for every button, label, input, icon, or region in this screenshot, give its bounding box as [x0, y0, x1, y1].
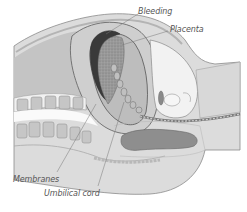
label-membranes: Membranes [13, 175, 59, 184]
rectum [121, 129, 197, 150]
label-umbilical-cord: Umbilical cord [44, 189, 100, 198]
label-placenta: Placenta [170, 25, 204, 34]
label-bleeding: Bleeding [138, 7, 172, 16]
